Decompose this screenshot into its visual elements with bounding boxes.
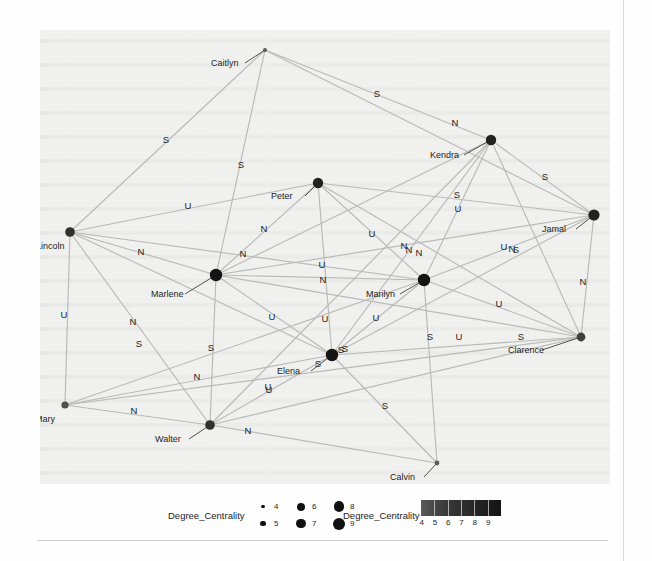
- edge-label: U: [269, 311, 276, 322]
- edge-label: S: [163, 134, 169, 145]
- graph-edge: [424, 280, 581, 337]
- edge-label: U: [319, 259, 326, 270]
- edge-label: S: [542, 171, 548, 182]
- color-legend-separator: [461, 500, 462, 516]
- node-label: Marlene: [151, 289, 184, 299]
- node-label: Clarence: [508, 345, 544, 355]
- color-legend-separator: [474, 500, 475, 516]
- edge-label: N: [131, 405, 138, 416]
- degree-centrality-color-legend: Degree_Centrality 456789: [343, 498, 503, 536]
- graph-edge: [216, 275, 581, 337]
- size-legend-entry: 7: [292, 519, 330, 528]
- color-legend-tick: 9: [481, 518, 494, 527]
- size-legend-entry: 5: [254, 519, 292, 528]
- graph-node[interactable]: [65, 227, 75, 237]
- edge-label: S: [374, 88, 380, 99]
- size-legend-entry: 6: [292, 502, 330, 511]
- node-label: Jamal: [542, 224, 566, 234]
- edge-label: U: [266, 384, 273, 395]
- color-legend-separator: [434, 500, 435, 516]
- graph-node[interactable]: [588, 209, 599, 220]
- graph-node[interactable]: [486, 135, 496, 145]
- size-legend-dot-holder: [292, 519, 310, 528]
- size-legend-value: 6: [312, 502, 316, 511]
- graph-node[interactable]: [577, 333, 586, 342]
- edge-label: N: [580, 276, 587, 287]
- color-gradient-bar: [421, 500, 501, 516]
- color-legend-ticks: 456789: [415, 518, 509, 527]
- edge-label: N: [452, 117, 459, 128]
- node-label: Walter: [155, 434, 181, 444]
- size-legend-value: 7: [312, 519, 316, 528]
- color-legend-title: Degree_Centrality: [343, 510, 420, 521]
- graph-edge: [65, 337, 581, 405]
- graph-edge: [70, 232, 332, 355]
- graph-node[interactable]: [313, 178, 323, 188]
- scanned-page: SSSNSUSNNSUNUNUNNNUSNNUSUUSUUSNNUSUSUSSN…: [0, 0, 652, 561]
- edge-label: N: [138, 246, 145, 257]
- edge-label: U: [369, 228, 376, 239]
- graph-edge: [265, 50, 594, 215]
- edge-label: S: [427, 331, 433, 342]
- graph-node[interactable]: [418, 274, 430, 286]
- color-legend-tick: 6: [442, 518, 455, 527]
- edge-label: N: [320, 274, 327, 285]
- size-legend-dot: [260, 521, 266, 527]
- graph-node[interactable]: [435, 461, 440, 466]
- edge-label: U: [455, 203, 462, 214]
- graph-node[interactable]: [210, 269, 222, 281]
- edge-label: N: [194, 371, 201, 382]
- edge-label: N: [130, 316, 137, 327]
- edge-label: N: [261, 223, 268, 234]
- size-legend-dot-holder: [254, 505, 272, 508]
- edge-label: S: [513, 244, 519, 255]
- graph-node[interactable]: [205, 420, 215, 430]
- edge-label: S: [454, 189, 460, 200]
- edge-label: S: [338, 344, 344, 355]
- edge-label: U: [456, 331, 463, 342]
- edge-label: N: [245, 425, 252, 436]
- node-label-leader-line: [245, 50, 265, 63]
- edge-label: N: [416, 247, 423, 258]
- graph-node[interactable]: [263, 48, 267, 52]
- size-legend-value: 4: [274, 502, 278, 511]
- graph-edge: [318, 183, 581, 337]
- size-legend-dot: [261, 505, 264, 508]
- edge-label: U: [185, 200, 192, 211]
- size-legend-dot: [296, 519, 305, 528]
- degree-centrality-size-legend: Degree_Centrality 468579: [168, 498, 368, 536]
- network-plot-panel: SSSNSUSNNSUNUNUNNNUSNNUSUUSUUSNNUSUSUSSN…: [40, 30, 610, 484]
- size-legend-dot-holder: [254, 521, 272, 527]
- node-label: Caitlyn: [211, 58, 239, 68]
- edge-label: S: [238, 159, 244, 170]
- edge-label: U: [501, 241, 508, 252]
- color-legend-separator: [448, 500, 449, 516]
- color-legend-tick: 7: [455, 518, 468, 527]
- node-label: Elena: [277, 366, 300, 376]
- edge-label: N: [401, 240, 408, 251]
- node-label: Mary: [40, 414, 55, 424]
- edge-label: U: [322, 313, 329, 324]
- graph-node[interactable]: [61, 401, 68, 408]
- size-legend-value: 5: [274, 519, 278, 528]
- graph-edge: [491, 140, 581, 337]
- edge-label: U: [61, 309, 68, 320]
- node-label: Peter: [271, 191, 293, 201]
- node-label: Marilyn: [366, 289, 395, 299]
- node-label: Calvin: [390, 472, 415, 482]
- edge-label: S: [136, 338, 142, 349]
- graph-edge: [216, 140, 491, 275]
- color-legend-separator: [488, 500, 489, 516]
- edge-label: U: [373, 312, 380, 323]
- network-graph: SSSNSUSNNSUNUNUNNNUSNNUSUUSUUSNNUSUSUSSN…: [40, 30, 610, 484]
- edge-label: U: [496, 298, 503, 309]
- graph-node[interactable]: [326, 349, 338, 361]
- graph-edge: [210, 140, 491, 425]
- graph-edge: [65, 405, 210, 425]
- node-label-leader-line: [424, 463, 437, 477]
- edge-label: N: [240, 248, 247, 259]
- node-label: Kendra: [430, 150, 459, 160]
- color-legend-tick: 8: [468, 518, 481, 527]
- graph-edge: [70, 232, 424, 280]
- color-legend-tick: 5: [428, 518, 441, 527]
